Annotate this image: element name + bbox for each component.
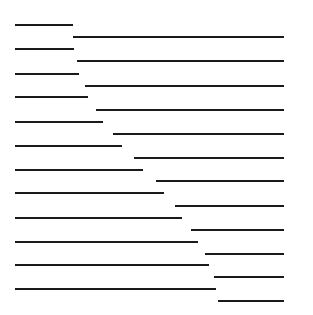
line-staircase-diagram — [0, 0, 313, 315]
